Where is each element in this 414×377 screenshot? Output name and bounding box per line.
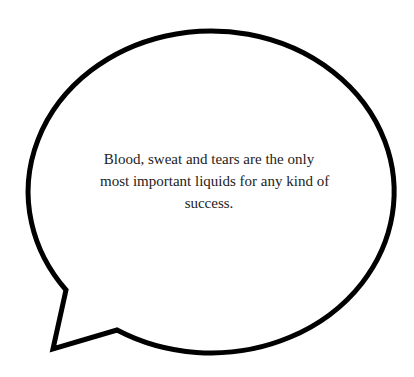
quote-line-3: success. xyxy=(100,192,318,214)
quote-line-2: most important liquids for any kind of xyxy=(100,170,318,192)
quote-text: Blood, sweat and tears are the only most… xyxy=(100,148,318,214)
quote-line-1: Blood, sweat and tears are the only xyxy=(100,148,318,170)
